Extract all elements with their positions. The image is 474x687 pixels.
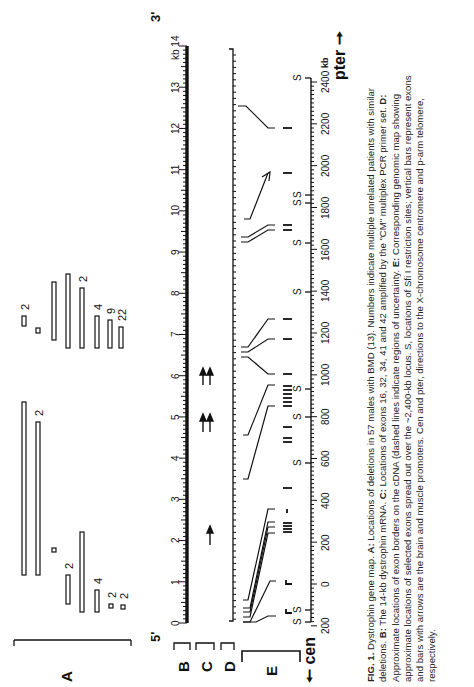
e-tick-label: 1800 [320,196,331,218]
deletion-count: 2 [33,410,45,416]
panel-a-deletions [22,274,125,612]
caption-part: D: [377,95,388,105]
e-tick-label: 2000 [320,155,331,177]
figure-caption: FIG. 1. Dystrophin gene map. A: Location… [365,62,439,682]
e-tick-label: 200 [320,618,331,635]
arrow-left-icon: 🠔 [301,669,318,683]
b-tick-label: 2 [170,538,181,544]
e-tick-label: 600 [320,450,331,467]
caption-part: A: [365,543,376,553]
b-tick-label: 13 [170,82,181,93]
b-tick-label: 9 [170,249,181,255]
sfi-site-label: S [292,191,303,198]
e-tick-label: 2200 [320,113,331,135]
e-tick-label: 1400 [320,280,331,302]
deletion-count: 2 [106,592,118,598]
caption-part: E: [390,258,401,268]
caption-part: Approximate locations of exon borders on… [390,267,401,682]
caption-part: C: [377,489,388,499]
panel-d-ruler [229,49,233,621]
b-tick-label: 1 [170,579,181,585]
e-tick-label: 800 [320,408,331,425]
sfi-site-label: S [292,385,303,392]
deletion-count: 2 [118,593,130,599]
e-tick-label: 1000 [320,364,331,386]
pter-direction: pter 🠖 [328,31,355,80]
b-tick-label: 8 [170,291,181,297]
sfi-site-label: S [292,239,303,246]
three-prime-label: 3' [148,12,163,22]
caption-part: FIG. 1. [365,653,376,682]
deletion-count: 2 [19,304,31,310]
panel-label-d: D [221,661,238,672]
caption-part: B: [377,628,388,638]
b-tick-label: 11 [170,165,181,175]
panel-e-connectors [238,106,276,622]
caption-part: Locations of exons 16, 32, 34, 41 and 42… [377,105,388,489]
b-tick-label: 3 [170,497,181,503]
e-tick-label: 1600 [320,238,331,260]
deletion-count: 4 [92,304,104,310]
panel-a-bracket [14,640,131,646]
panel-label-e: E [263,666,280,676]
deletion-count: 22 [116,309,128,321]
e-tick-label: 0 [320,581,331,587]
deletion-count: 2 [63,563,75,569]
b-tick-label: 4 [170,455,181,461]
b-tick-label: 12 [170,123,181,134]
e-kb-unit: kb [320,57,330,68]
sfi-site-label: S [292,288,303,295]
e-tick-label: 2400 [320,71,331,93]
deletion-count: 2 [77,276,89,282]
cen-direction: 🠔 cen [298,637,325,683]
panel-label-b: B [175,661,192,672]
sfi-site-label: S [292,618,303,625]
pter-label: pter [331,50,348,80]
sfi-site-label: S [292,459,303,466]
bcde-brackets [174,643,300,662]
five-prime-label: 5' [148,632,163,642]
cen-label: cen [301,637,318,665]
caption-part: Dystrophin gene map. [365,553,376,652]
panel-label-a: A [58,671,75,682]
sfi-site-label: S [292,199,303,206]
panel-c-arrows [200,368,213,545]
b-tick-label: 0 [170,620,181,626]
b-tick-label: 10 [170,205,181,216]
arrow-right-icon: 🠖 [331,31,348,45]
b-tick-label: 7 [170,332,181,338]
b-tick-label: 6 [170,373,181,379]
panel-e-exon-bars [283,128,292,613]
sfi-site-label: S [292,606,303,613]
panel-label-c: C [198,661,215,672]
deletion-count: 4 [92,578,104,584]
e-tick-label: 1200 [320,322,331,344]
sfi-site-label: S [292,74,303,81]
e-tick-label: 400 [320,492,331,509]
e-tick-label: 200 [320,534,331,551]
b-tick-label: 5 [170,414,181,420]
panel-e-axis [305,78,311,622]
sfi-site-label: S [292,413,303,420]
b-tick-label: kb 14 [170,36,181,60]
caption-part: The 14-kb dystrophin mRNA. [377,499,388,628]
